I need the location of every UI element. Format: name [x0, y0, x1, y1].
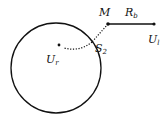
label-Ur: Ur [46, 53, 59, 67]
dotted-path-Ur [64, 42, 92, 49]
label-R: Rb [124, 6, 138, 20]
label-Ul: Ul [148, 33, 160, 47]
point-Ul [152, 22, 155, 25]
dotted-path-S2 [92, 24, 108, 42]
point-Ur [58, 44, 61, 47]
diagram: M Rb S2 Ul Ur [0, 0, 166, 122]
label-M: M [98, 6, 111, 19]
sphere-circle [11, 23, 101, 113]
label-S2: S2 [95, 42, 108, 56]
